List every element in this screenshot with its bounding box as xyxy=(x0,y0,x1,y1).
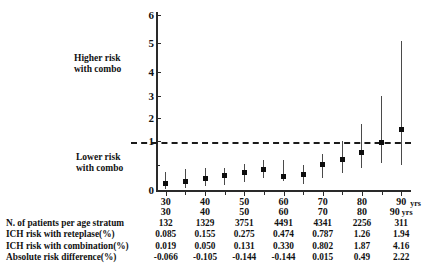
table-cell: -0.066 xyxy=(146,252,186,262)
data-point-marker xyxy=(320,162,325,167)
plot-area: 0 1 2 3 4 5 6 Higher risk xyxy=(0,0,423,212)
table-cell: 3751 xyxy=(224,218,264,228)
table-cell: 2256 xyxy=(342,218,382,228)
x-tick-minor xyxy=(264,190,265,195)
table-cell: 0.015 xyxy=(303,252,343,262)
annotation-lower-risk: Lower risk with combo xyxy=(76,152,123,174)
x-tick-minor xyxy=(225,190,226,195)
table-cell: 4341 xyxy=(303,218,343,228)
data-point-marker xyxy=(379,140,384,145)
table-cell: 0.085 xyxy=(146,229,186,239)
table-cell: 0.474 xyxy=(264,229,304,239)
table-cell: 4491 xyxy=(264,218,304,228)
data-point-marker xyxy=(281,174,286,179)
y-tick-label-5: 5 xyxy=(128,38,154,48)
annotation-higher-risk-line1: Higher risk xyxy=(74,53,121,64)
table-cell: -0.144 xyxy=(264,252,304,262)
x-tick-minor xyxy=(382,190,383,195)
y-tick-label-6: 6 xyxy=(128,10,154,20)
table-cell: 4.16 xyxy=(381,241,421,251)
table-row: Absolute risk difference(%)-0.066-0.105-… xyxy=(0,252,423,264)
table-header-cell: 80 xyxy=(342,206,382,217)
table-body: N. of patients per age stratum1321329375… xyxy=(0,218,423,264)
table-cell: 0.131 xyxy=(224,241,264,251)
y-tick-label-3: 3 xyxy=(128,91,154,101)
x-tick-minor xyxy=(303,190,304,195)
table-row: N. of patients per age stratum1321329375… xyxy=(0,218,423,230)
table-cell: 1.87 xyxy=(342,241,382,251)
table-cell: 1.94 xyxy=(381,229,421,239)
table-cell: 0.330 xyxy=(264,241,304,251)
annotation-lower-risk-line2: with combo xyxy=(76,163,123,174)
table-header-cell: 90 yrs xyxy=(381,206,421,217)
reference-line-rr1 xyxy=(131,142,411,144)
data-point-marker xyxy=(222,173,227,178)
y-tick-4 xyxy=(156,72,161,73)
table-row-label: ICH risk with combination(%) xyxy=(6,241,129,251)
y-tick-5 xyxy=(156,43,161,44)
table-header-units: yrs xyxy=(400,208,413,217)
table-cell: 0.050 xyxy=(185,241,225,251)
data-point-marker xyxy=(261,167,266,172)
table-header-cell: 60 xyxy=(264,206,304,217)
data-point-marker xyxy=(399,127,404,132)
table-header-cell: 30 xyxy=(146,206,186,217)
confidence-interval-bar xyxy=(401,41,402,165)
table-cell: -0.144 xyxy=(224,252,264,262)
table-row-label: Absolute risk difference(%) xyxy=(6,252,116,262)
y-tick-label-2-wrap: 2 xyxy=(128,113,154,123)
table-row-label: N. of patients per age stratum xyxy=(6,218,124,228)
data-point-marker xyxy=(340,157,345,162)
table-header-row: 30405060708090 yrs xyxy=(0,206,423,218)
y-tick-label-6-wrap: 6 xyxy=(128,10,154,20)
y-tick-label-0-wrap: 0 xyxy=(128,185,154,195)
y-tick-label-3-wrap: 3 xyxy=(128,91,154,101)
table-cell: 2.22 xyxy=(381,252,421,262)
annotation-lower-risk-line1: Lower risk xyxy=(76,152,123,163)
table-cell: 132 xyxy=(146,218,186,228)
table-cell: -0.105 xyxy=(185,252,225,262)
y-tick-3 xyxy=(156,96,161,97)
y-tick-label-2: 2 xyxy=(128,113,154,123)
table-cell: 0.787 xyxy=(303,229,343,239)
y-tick-label-0: 0 xyxy=(128,185,154,195)
data-table: 30405060708090 yrs N. of patients per ag… xyxy=(0,206,423,275)
table-cell: 0.155 xyxy=(185,229,225,239)
x-tick-minor xyxy=(185,190,186,195)
x-tick-minor xyxy=(342,190,343,195)
y-tick-6 xyxy=(156,15,161,16)
y-tick-minor-05 xyxy=(156,165,160,166)
data-point-marker xyxy=(203,176,208,181)
table-row-label: ICH risk with reteplase(%) xyxy=(6,229,115,239)
data-point-marker xyxy=(183,179,188,184)
table-cell: 0.019 xyxy=(146,241,186,251)
table-cell: 1329 xyxy=(185,218,225,228)
annotation-higher-risk-line2: with combo xyxy=(74,64,121,75)
y-tick-label-4-wrap: 4 xyxy=(128,67,154,77)
confidence-interval-bar xyxy=(361,124,362,168)
data-point-marker xyxy=(242,170,247,175)
y-tick-label-4: 4 xyxy=(128,67,154,77)
table-cell: 1.26 xyxy=(342,229,382,239)
table-cell: 0.802 xyxy=(303,241,343,251)
y-tick-0 xyxy=(156,190,161,191)
forest-plot-figure: 0 1 2 3 4 5 6 Higher risk xyxy=(0,0,423,275)
table-header-cell: 50 xyxy=(224,206,264,217)
y-tick-label-5-wrap: 5 xyxy=(128,38,154,48)
y-tick-label-1: 1 xyxy=(128,136,154,146)
confidence-interval-bar xyxy=(381,96,382,163)
table-header-cell: 70 xyxy=(303,206,343,217)
table-row: ICH risk with combination(%)0.0190.0500.… xyxy=(0,241,423,253)
data-point-marker xyxy=(359,150,364,155)
table-cell: 0.275 xyxy=(224,229,264,239)
data-point-marker xyxy=(163,181,168,186)
table-row: ICH risk with reteplase(%)0.0850.1550.27… xyxy=(0,229,423,241)
data-point-marker xyxy=(301,172,306,177)
table-cell: 0.49 xyxy=(342,252,382,262)
table-cell: 311 xyxy=(381,218,421,228)
table-header-cell: 40 xyxy=(185,206,225,217)
y-tick-label-1-wrap: 1 xyxy=(128,136,154,146)
annotation-higher-risk: Higher risk with combo xyxy=(74,53,121,75)
y-tick-2 xyxy=(156,118,161,119)
